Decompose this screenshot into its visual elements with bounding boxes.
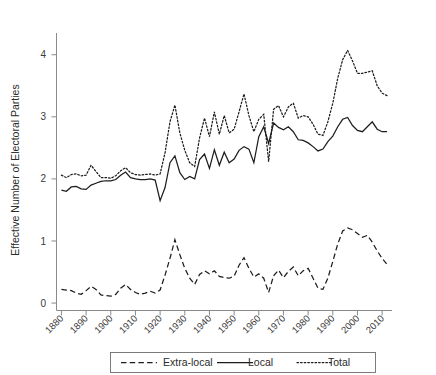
chart-figure: Effective Number of Electoral Parties 01… [0, 0, 436, 375]
x-tick-label: 1960 [240, 313, 263, 336]
effective-number-of-electoral-parties-chart: Effective Number of Electoral Parties 01… [0, 0, 436, 375]
series-line-total [61, 50, 387, 178]
x-tick-label: 1890 [67, 313, 90, 336]
x-tick-label: 2010 [363, 313, 386, 336]
x-tick-label: 1910 [117, 313, 140, 336]
x-tick-label: 1880 [43, 313, 66, 336]
x-tick-label: 1930 [166, 313, 189, 336]
y-tick-label: 1 [40, 236, 46, 247]
x-tick-label: 1920 [141, 313, 164, 336]
series-line-local [61, 117, 387, 200]
y-axis-ticks: 01234 [40, 49, 56, 308]
x-tick-label: 1900 [92, 313, 115, 336]
legend-label-total: Total [328, 356, 350, 368]
y-tick-label: 3 [40, 111, 46, 122]
y-tick-label: 4 [40, 49, 46, 60]
y-tick-label: 0 [40, 298, 46, 309]
x-tick-label: 1940 [191, 313, 214, 336]
x-tick-label: 2000 [339, 313, 362, 336]
x-tick-label: 1950 [215, 313, 238, 336]
legend-label-extra-local: Extra-local [163, 356, 213, 368]
x-tick-label: 1980 [289, 313, 312, 336]
x-tick-label: 1970 [265, 313, 288, 336]
y-axis-title: Effective Number of Electoral Parties [9, 84, 21, 255]
chart-legend: Extra-localLocalTotal [111, 353, 376, 373]
x-tick-label: 1990 [314, 313, 337, 336]
x-axis-ticks: 1880189019001910192019301940195019601970… [43, 311, 386, 336]
data-series-group [61, 50, 387, 296]
legend-label-local: Local [248, 356, 273, 368]
y-tick-label: 2 [40, 173, 46, 184]
series-line-extra-local [61, 228, 387, 296]
